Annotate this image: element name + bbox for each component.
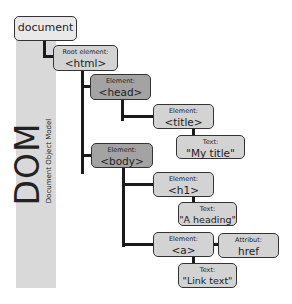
node-document: document <box>14 16 77 41</box>
node-html-value: <html> <box>54 57 117 69</box>
node-document-label: document <box>15 17 76 39</box>
node-a-text-value: "Link text" <box>179 275 236 287</box>
connector-body-a <box>122 243 154 246</box>
node-head-value: <head> <box>91 86 150 98</box>
node-title: Element: <title> <box>153 104 214 129</box>
node-a-attribute: Attribut: href <box>218 233 279 258</box>
dom-subtitle: Document Object Model <box>44 106 54 216</box>
node-body-caption: Element: <box>92 146 152 155</box>
node-title-caption: Element: <box>154 107 213 116</box>
node-h1-caption: Element: <box>154 175 213 184</box>
node-h1: Element: <h1> <box>153 172 214 197</box>
node-title-text-value: "My title" <box>177 147 244 159</box>
node-title-text-caption: Text: <box>177 138 244 147</box>
node-h1-text-caption: Text: <box>179 205 236 214</box>
node-html: Root element: <html> <box>53 45 118 71</box>
node-title-value: <title> <box>154 116 213 128</box>
node-a-text-caption: Text: <box>179 266 236 275</box>
node-a-caption: Element: <box>154 235 213 244</box>
node-a-value: <a> <box>154 244 213 256</box>
node-body-value: <body> <box>92 155 152 167</box>
connector-head-title <box>121 115 154 118</box>
node-a-attribute-caption: Attribut: <box>219 236 278 245</box>
node-body: Element: <body> <box>91 143 153 168</box>
node-h1-text-value: "A heading" <box>179 214 236 226</box>
node-html-caption: Root element: <box>54 48 117 57</box>
dom-title: DOM <box>11 109 45 219</box>
node-head-caption: Element: <box>91 77 150 86</box>
connector-body-h1 <box>122 183 154 186</box>
node-h1-value: <h1> <box>154 184 213 196</box>
node-a-text: Text: "Link text" <box>178 263 237 288</box>
connector-body-trunk <box>122 167 125 247</box>
node-head: Element: <head> <box>90 74 151 100</box>
connector-html-body <box>81 154 91 157</box>
node-title-text: Text: "My title" <box>176 135 245 159</box>
node-a: Element: <a> <box>153 232 214 257</box>
node-h1-text: Text: "A heading" <box>178 202 237 226</box>
node-a-attribute-value: href <box>219 245 278 257</box>
